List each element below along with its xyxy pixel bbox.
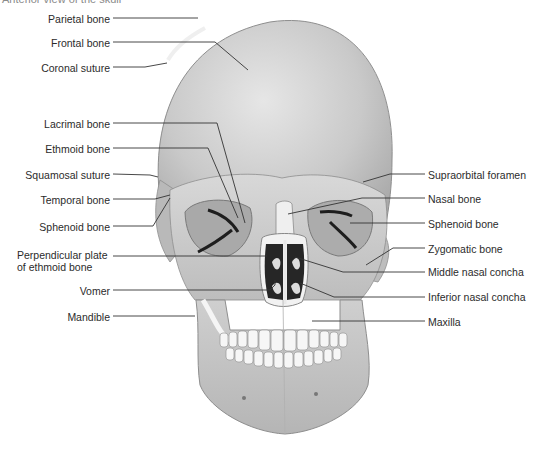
label-coronal-suture: Coronal suture — [41, 62, 110, 74]
label-lacrimal-bone: Lacrimal bone — [44, 118, 110, 130]
label-vomer: Vomer — [80, 285, 110, 297]
label-perpendicular-plate-line2: of ethmoid bone — [17, 261, 92, 273]
nasal-bone-shape — [276, 201, 294, 235]
label-zygomatic-bone: Zygomatic bone — [428, 243, 503, 255]
label-inferior-nasal-concha: Inferior nasal concha — [428, 291, 525, 303]
label-supraorbital-foramen: Supraorbital foramen — [428, 169, 526, 181]
label-ethmoid-bone: Ethmoid bone — [45, 143, 110, 155]
label-parietal-bone: Parietal bone — [48, 13, 110, 25]
label-frontal-bone: Frontal bone — [51, 37, 110, 49]
mental-foramen-right — [314, 392, 318, 396]
label-mandible: Mandible — [67, 311, 110, 323]
mental-foramen-left — [242, 396, 246, 400]
nasal-cavity — [260, 234, 308, 307]
label-perpendicular-plate: Perpendicular plate — [17, 249, 107, 261]
label-sphenoid-bone-right: Sphenoid bone — [428, 218, 499, 230]
label-nasal-bone: Nasal bone — [428, 193, 481, 205]
label-sphenoid-bone-left: Sphenoid bone — [39, 221, 110, 233]
label-middle-nasal-concha: Middle nasal concha — [428, 266, 524, 278]
label-maxilla: Maxilla — [428, 316, 461, 328]
label-temporal-bone: Temporal bone — [41, 194, 110, 206]
label-squamosal-suture: Squamosal suture — [25, 169, 110, 181]
